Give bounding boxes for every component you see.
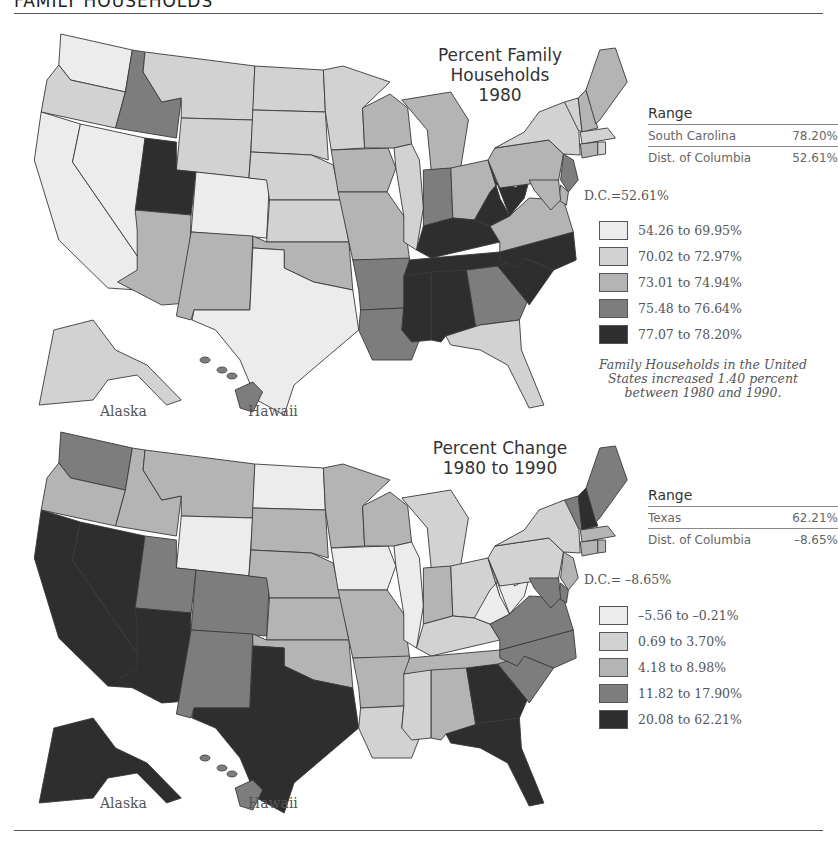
range-row-low: Dist. of Columbia –8.65%	[648, 529, 838, 550]
map-title-line: 1980	[400, 85, 600, 105]
legend-item: 73.01 to 74.94%	[599, 269, 742, 295]
legend-swatch	[599, 632, 628, 651]
map-title-line: Percent Change	[400, 438, 600, 458]
summary-note: Family Households in the United States i…	[598, 358, 808, 400]
map-title: Percent Change 1980 to 1990	[400, 438, 600, 478]
range-title: Range	[648, 487, 838, 507]
state-nd	[253, 66, 326, 112]
range-title: Range	[648, 105, 838, 125]
range-label: Texas	[648, 511, 681, 525]
state-hi-island	[217, 765, 227, 771]
range-row-low: Dist. of Columbia 52.61%	[648, 147, 838, 168]
range-row-high: South Carolina 78.20%	[648, 125, 838, 147]
state-hi-island	[200, 357, 210, 363]
map-title-line: Households	[400, 65, 600, 85]
dc-note: D.C.= –8.65%	[584, 572, 671, 587]
map-title-line: 1980 to 1990	[400, 458, 600, 478]
state-co	[191, 172, 269, 238]
legend-swatch	[599, 684, 628, 703]
state-ct	[580, 142, 598, 158]
legend-swatch	[599, 658, 628, 677]
state-ct	[580, 540, 598, 556]
alaska-label: Alaska	[100, 403, 147, 419]
legend-item: 11.82 to 17.90%	[599, 680, 742, 706]
state-in	[423, 566, 452, 624]
dc-note: D.C.=52.61%	[584, 188, 669, 203]
state-co	[191, 570, 269, 636]
state-in	[423, 168, 452, 226]
alaska-label: Alaska	[100, 795, 147, 811]
range-table: Range South Carolina 78.20% Dist. of Col…	[648, 105, 838, 168]
legend-label: –5.56 to –0.21%	[638, 608, 739, 623]
top-rule	[14, 13, 823, 14]
legend-swatch	[599, 710, 628, 729]
legend-swatch	[599, 247, 628, 266]
range-row-high: Texas 62.21%	[648, 507, 838, 529]
range-label: Dist. of Columbia	[648, 533, 751, 547]
hawaii-label: Hawaii	[248, 403, 298, 419]
state-wy	[176, 118, 252, 178]
range-value: 62.21%	[792, 511, 838, 525]
legend: –5.56 to –0.21% 0.69 to 3.70% 4.18 to 8.…	[599, 602, 742, 732]
state-hi-island	[200, 755, 210, 761]
state-ak	[39, 718, 181, 803]
state-hi-island	[227, 771, 237, 777]
states-layer	[34, 432, 627, 813]
legend-item: 70.02 to 72.97%	[599, 243, 742, 269]
state-fl	[446, 718, 544, 806]
map-percent-change-1980-1990: Percent Change 1980 to 1990 Range Texas …	[0, 430, 823, 830]
legend-swatch	[599, 606, 628, 625]
state-ia	[331, 546, 396, 590]
hawaii-label: Hawaii	[248, 795, 298, 811]
legend-label: 20.08 to 62.21%	[638, 712, 742, 727]
legend-swatch	[599, 299, 628, 318]
state-nj	[561, 154, 579, 192]
state-ri	[598, 142, 606, 155]
range-value: 78.20%	[792, 129, 838, 143]
map-family-households-1980: Percent Family Households 1980 Range Sou…	[0, 20, 823, 435]
legend-label: 4.18 to 8.98%	[638, 660, 726, 675]
state-ia	[331, 148, 396, 192]
state-nj	[561, 552, 579, 590]
page-header: FAMILY HOUSEHOLDS	[14, 0, 213, 11]
range-label: South Carolina	[648, 129, 736, 143]
state-hi-island	[217, 367, 227, 373]
legend-label: 75.48 to 76.64%	[638, 301, 742, 316]
map-title: Percent Family Households 1980	[400, 45, 600, 105]
state-fl	[446, 320, 544, 408]
bottom-rule	[14, 830, 823, 831]
range-value: –8.65%	[794, 533, 838, 547]
state-ks	[267, 200, 349, 242]
state-ak	[39, 320, 181, 405]
state-ms	[402, 272, 431, 342]
legend-item: –5.56 to –0.21%	[599, 602, 742, 628]
state-ar	[353, 656, 410, 708]
range-value: 52.61%	[792, 151, 838, 165]
range-label: Dist. of Columbia	[648, 151, 751, 165]
map-title-line: Percent Family	[400, 45, 600, 65]
legend: 54.26 to 69.95% 70.02 to 72.97% 73.01 to…	[599, 217, 742, 347]
legend-swatch	[599, 273, 628, 292]
legend-label: 0.69 to 3.70%	[638, 634, 726, 649]
state-hi-island	[227, 373, 237, 379]
legend-label: 70.02 to 72.97%	[638, 249, 742, 264]
state-ms	[402, 670, 431, 740]
legend-label: 54.26 to 69.95%	[638, 223, 742, 238]
state-ri	[598, 540, 606, 553]
legend-label: 73.01 to 74.94%	[638, 275, 742, 290]
legend-item: 0.69 to 3.70%	[599, 628, 742, 654]
legend-item: 4.18 to 8.98%	[599, 654, 742, 680]
state-nd	[253, 464, 326, 510]
legend-label: 77.07 to 78.20%	[638, 327, 742, 342]
legend-swatch	[599, 325, 628, 344]
legend-item: 54.26 to 69.95%	[599, 217, 742, 243]
state-ar	[353, 258, 410, 310]
legend-label: 11.82 to 17.90%	[638, 686, 742, 701]
state-wy	[176, 516, 252, 576]
range-table: Range Texas 62.21% Dist. of Columbia –8.…	[648, 487, 838, 550]
legend-item: 20.08 to 62.21%	[599, 706, 742, 732]
state-ks	[267, 598, 349, 640]
legend-item: 77.07 to 78.20%	[599, 321, 742, 347]
legend-swatch	[599, 221, 628, 240]
legend-item: 75.48 to 76.64%	[599, 295, 742, 321]
